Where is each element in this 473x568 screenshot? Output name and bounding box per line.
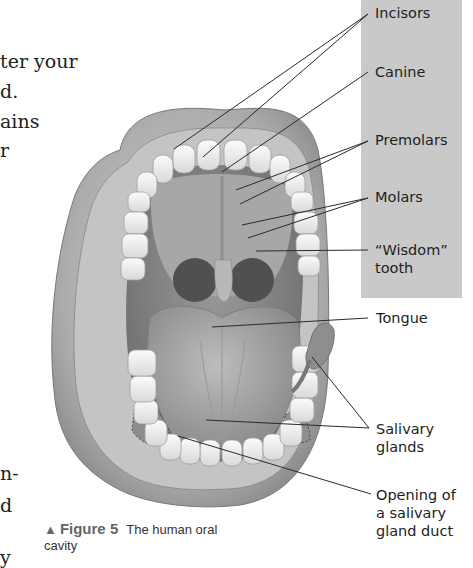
label-incisors: Incisors: [375, 4, 430, 22]
label-canine: Canine: [375, 63, 425, 81]
figure-caption: ▲Figure 5The human oral cavity: [44, 521, 254, 554]
triangle-icon: ▲: [44, 522, 57, 537]
label-opening-line3: gland duct: [376, 522, 456, 540]
label-wisdom-line1: “Wisdom”: [375, 241, 448, 259]
label-opening-line1: Opening of: [376, 486, 456, 504]
label-wisdom-tooth: “Wisdom” tooth: [375, 241, 448, 277]
figure-number: Figure 5: [60, 520, 118, 537]
label-premolars: Premolars: [375, 131, 447, 149]
label-wisdom-line2: tooth: [375, 259, 448, 277]
label-salivary-line1: Salivary: [376, 420, 434, 438]
label-salivary-line2: glands: [376, 438, 434, 456]
label-salivary-glands: Salivary glands: [376, 420, 434, 456]
label-tongue: Tongue: [376, 309, 428, 327]
label-molars: Molars: [375, 188, 423, 206]
label-duct-opening: Opening of a salivary gland duct: [376, 486, 456, 540]
label-opening-line2: a salivary: [376, 504, 456, 522]
